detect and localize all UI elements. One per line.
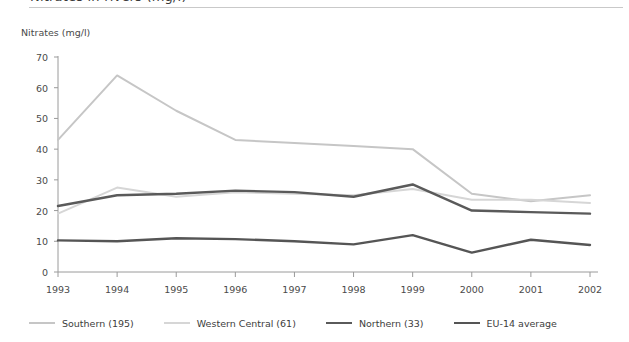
y-tick-label: 20 bbox=[24, 205, 48, 216]
x-tick-label: 1997 bbox=[271, 284, 317, 295]
x-tick-label: 2000 bbox=[449, 284, 495, 295]
y-tick-label: 50 bbox=[24, 113, 48, 124]
x-tick-label: 1998 bbox=[331, 284, 377, 295]
x-tick-label: 1995 bbox=[153, 284, 199, 295]
x-tick-label: 1993 bbox=[35, 284, 81, 295]
legend-color-swatch bbox=[164, 322, 190, 324]
legend-label: EU-14 average bbox=[487, 318, 557, 329]
legend-color-swatch bbox=[326, 322, 352, 324]
legend-label: Northern (33) bbox=[359, 318, 424, 329]
series-line bbox=[58, 75, 590, 201]
x-tick-label: 1994 bbox=[94, 284, 140, 295]
chart-legend: Southern (195)Western Central (61)Northe… bbox=[29, 312, 609, 334]
x-tick-label: 1996 bbox=[212, 284, 258, 295]
legend-label: Western Central (61) bbox=[197, 318, 296, 329]
legend-color-swatch bbox=[454, 322, 480, 324]
y-tick-label: 0 bbox=[24, 267, 48, 278]
x-tick-label: 1999 bbox=[390, 284, 436, 295]
y-tick-label: 70 bbox=[24, 52, 48, 63]
series-line bbox=[58, 188, 590, 214]
y-tick-label: 60 bbox=[24, 82, 48, 93]
x-tick-label: 2002 bbox=[567, 284, 613, 295]
legend-label: Southern (195) bbox=[62, 318, 134, 329]
series-line bbox=[58, 235, 590, 253]
legend-item[interactable]: Northern (33) bbox=[326, 318, 424, 329]
legend-item[interactable]: Western Central (61) bbox=[164, 318, 296, 329]
y-tick-label: 10 bbox=[24, 236, 48, 247]
y-tick-label: 30 bbox=[24, 174, 48, 185]
legend-color-swatch bbox=[29, 322, 55, 324]
y-tick-label: 40 bbox=[24, 144, 48, 155]
legend-item[interactable]: EU-14 average bbox=[454, 318, 557, 329]
legend-item[interactable]: Southern (195) bbox=[29, 318, 134, 329]
x-tick-label: 2001 bbox=[508, 284, 554, 295]
